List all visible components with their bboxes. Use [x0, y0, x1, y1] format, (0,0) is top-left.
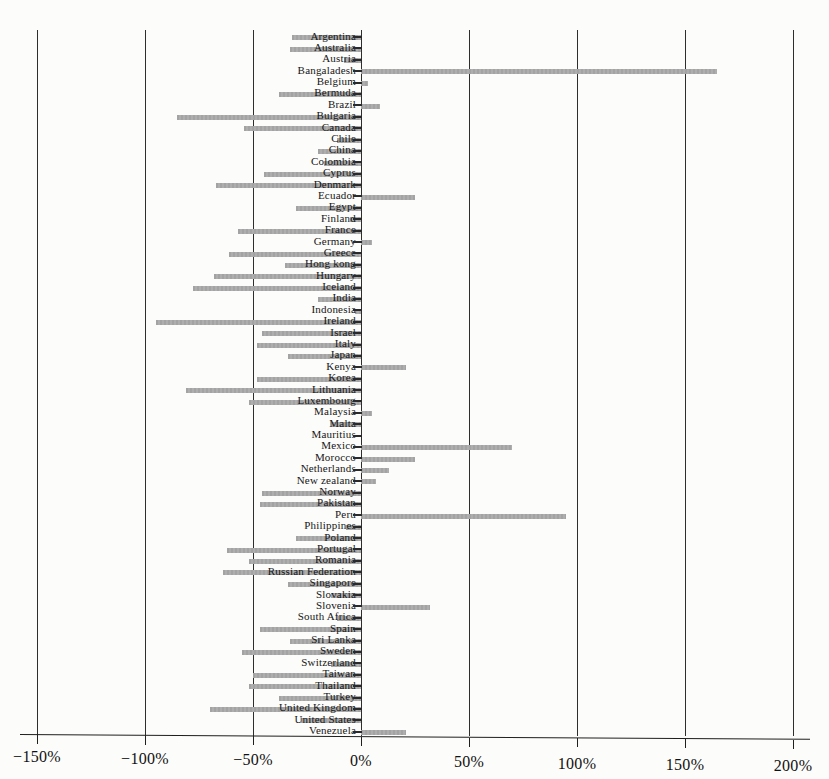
country-label: Japan — [0, 349, 356, 360]
row-tick — [353, 93, 362, 95]
country-label: Mauritius — [0, 429, 356, 440]
row-tick — [353, 514, 362, 516]
x-axis-label: 100% — [558, 755, 597, 773]
country-label: Philippines — [0, 520, 356, 531]
x-axis-tick — [793, 740, 794, 749]
row-tick — [353, 47, 362, 49]
x-axis-label: −50% — [233, 751, 273, 769]
bar — [361, 730, 406, 735]
x-axis-tick — [253, 736, 254, 745]
gridline — [685, 30, 686, 736]
row-tick — [353, 59, 362, 61]
bar — [361, 468, 389, 473]
row-tick — [353, 184, 362, 186]
bar — [361, 411, 372, 416]
row-tick — [353, 161, 362, 163]
gridline — [361, 30, 362, 736]
country-label: Taiwan — [0, 668, 356, 679]
row-tick — [353, 82, 362, 84]
country-label: Sri Lanka — [0, 634, 356, 645]
country-label: Thailand — [0, 680, 356, 691]
x-axis-tick — [361, 737, 362, 746]
country-label: Brazil — [0, 99, 356, 110]
row-tick — [353, 412, 362, 414]
country-label: Lithuania — [0, 384, 356, 395]
country-label: United States — [0, 714, 356, 725]
gridline — [577, 30, 578, 736]
country-label: Belgium — [0, 76, 356, 87]
row-tick — [353, 719, 362, 721]
country-label: Singapore — [0, 577, 356, 588]
country-label: Italy — [0, 338, 356, 349]
bar — [361, 514, 566, 519]
country-label: Bangaladesh — [0, 65, 356, 76]
country-label: Bermuda — [0, 87, 356, 98]
row-tick — [353, 309, 362, 311]
row-tick — [353, 583, 362, 585]
gridline — [469, 30, 470, 736]
country-label: Sweden — [0, 645, 356, 656]
x-axis-tick — [469, 738, 470, 747]
row-tick — [353, 503, 362, 505]
x-axis-tick — [145, 736, 146, 745]
country-label: Malaysia — [0, 406, 356, 417]
row-tick — [353, 423, 362, 425]
x-axis-label: 200% — [774, 757, 813, 775]
x-axis-label: −100% — [121, 750, 169, 768]
bar — [361, 445, 512, 450]
row-tick — [353, 708, 362, 710]
country-label: Indonesia — [0, 304, 356, 315]
country-label: Norway — [0, 486, 356, 497]
row-tick — [353, 617, 362, 619]
row-tick — [353, 173, 362, 175]
row-tick — [353, 355, 362, 357]
row-tick — [353, 548, 362, 550]
country-label: Egypt — [0, 201, 356, 212]
row-tick — [353, 287, 362, 289]
row-tick — [353, 298, 362, 300]
row-tick — [353, 446, 362, 448]
row-tick — [353, 195, 362, 197]
x-axis-label: 0% — [350, 752, 372, 770]
row-tick — [353, 571, 362, 573]
country-label: Mexico — [0, 440, 356, 451]
row-tick — [353, 70, 362, 72]
country-label: Malta — [0, 418, 356, 429]
country-label: Korea — [0, 372, 356, 383]
country-label: Pakistan — [0, 497, 356, 508]
row-tick — [353, 594, 362, 596]
country-label: Ecuador — [0, 190, 356, 201]
bar — [361, 457, 415, 462]
row-tick — [353, 104, 362, 106]
row-tick — [353, 389, 362, 391]
row-tick — [353, 526, 362, 528]
country-label: Hungary — [0, 270, 356, 281]
row-tick — [353, 662, 362, 664]
country-label: Australia — [0, 42, 356, 53]
row-tick — [353, 605, 362, 607]
country-label: Chile — [0, 133, 356, 144]
row-tick — [353, 685, 362, 687]
row-tick — [353, 480, 362, 482]
row-tick — [353, 457, 362, 459]
country-label: Bulgaria — [0, 110, 356, 121]
row-tick — [353, 537, 362, 539]
row-tick — [353, 492, 362, 494]
x-axis-label: −150% — [13, 748, 61, 766]
country-label: Romania — [0, 554, 356, 565]
x-axis-label: 150% — [666, 756, 705, 774]
country-label: Spain — [0, 623, 356, 634]
row-tick — [353, 560, 362, 562]
country-label: France — [0, 224, 356, 235]
row-tick — [353, 344, 362, 346]
row-tick — [353, 264, 362, 266]
row-tick — [353, 207, 362, 209]
row-tick — [353, 321, 362, 323]
row-tick — [353, 139, 362, 141]
row-tick — [353, 252, 362, 254]
country-label: Ireland — [0, 315, 356, 326]
country-label: New zealand — [0, 475, 356, 486]
country-label: Poland — [0, 532, 356, 543]
country-label: Israel — [0, 327, 356, 338]
country-label: Slovakia — [0, 589, 356, 600]
